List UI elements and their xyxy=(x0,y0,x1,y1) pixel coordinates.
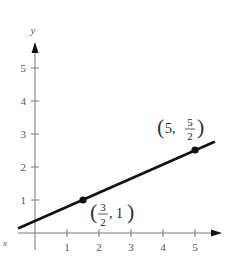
point-label-1: ( 3 2 , 1 ) xyxy=(90,199,134,228)
x-tick-label: 2 xyxy=(96,241,102,253)
y-tick-label: 3 xyxy=(21,128,27,140)
data-point-1 xyxy=(79,196,86,203)
y-tick-label: 5 xyxy=(21,62,27,74)
svg-text:3: 3 xyxy=(100,201,106,213)
x-tick-labels: 1 2 3 4 5 xyxy=(64,241,198,253)
svg-text:2: 2 xyxy=(100,216,106,228)
svg-text:(: ( xyxy=(90,199,97,224)
svg-text:5,: 5, xyxy=(165,121,176,136)
y-axis-label: y xyxy=(30,24,36,36)
x-tick-label: 3 xyxy=(128,241,134,253)
y-tick-label: 1 xyxy=(21,194,27,206)
svg-text:5: 5 xyxy=(187,116,193,128)
svg-text:): ) xyxy=(127,199,134,224)
x-axis-arrow-icon xyxy=(211,230,222,237)
y-tick-label: 2 xyxy=(21,161,27,173)
svg-text:(: ( xyxy=(157,114,164,139)
point-label-2: ( 5, 5 2 ) xyxy=(157,114,204,142)
svg-text:): ) xyxy=(197,114,204,139)
chart: 1 2 3 4 5 1 2 3 4 5 y x ( 3 2 , 1 ) ( 5, xyxy=(0,0,227,264)
x-tick-label: 1 xyxy=(64,241,70,253)
y-axis-arrow-icon xyxy=(32,42,39,53)
data-point-2 xyxy=(191,146,198,153)
y-tick-label: 4 xyxy=(21,95,27,107)
x-tick-label: 5 xyxy=(192,241,198,253)
x-tick-label: 4 xyxy=(160,241,166,253)
svg-text:2: 2 xyxy=(187,130,193,142)
svg-text:, 1: , 1 xyxy=(109,206,123,221)
y-tick-labels: 1 2 3 4 5 xyxy=(21,62,27,206)
x-axis-label: x xyxy=(2,238,7,248)
